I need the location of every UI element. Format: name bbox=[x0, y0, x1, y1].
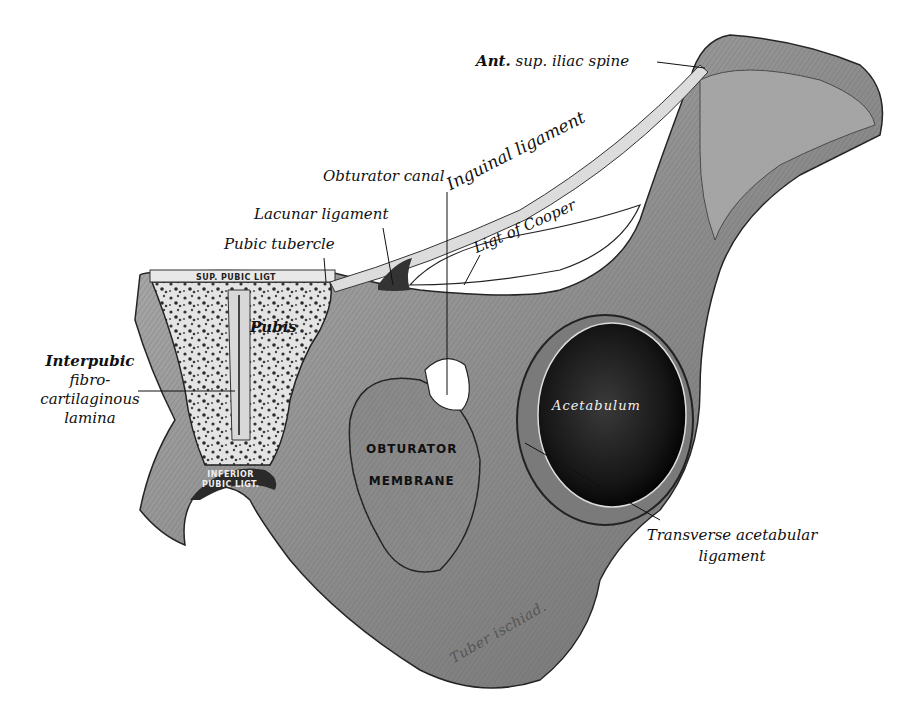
label-interpubic-line-3: cartilaginous bbox=[30, 390, 150, 409]
iliac-fossa bbox=[700, 70, 875, 240]
label-obturator-membrane: OBTURATOR MEMBRANE bbox=[366, 433, 458, 497]
label-ant-rest: sup. iliac spine bbox=[511, 52, 629, 70]
label-pubic-tubercle: Pubic tubercle bbox=[224, 236, 335, 253]
label-obturator-line-2: MEMBRANE bbox=[366, 465, 458, 497]
label-inferior-line-2: PUBIC LIGT. bbox=[202, 480, 259, 490]
label-lacunar-ligament: Lacunar ligament bbox=[254, 206, 388, 223]
label-interpubic-line-1: Interpubic bbox=[30, 352, 150, 371]
label-interpubic-lamina: Interpubic fibro- cartilaginous lamina bbox=[30, 352, 150, 428]
label-inferior-line-1: INFERIOR bbox=[202, 470, 259, 480]
label-ant-sup-iliac-spine: Ant. sup. iliac spine bbox=[476, 53, 629, 70]
label-sup-pubic-ligt: SUP. PUBIC LIGT bbox=[196, 273, 276, 282]
label-transverse-acetabular-ligament: Transverse acetabular ligament bbox=[632, 525, 832, 567]
label-inferior-pubic-ligt: INFERIOR PUBIC LIGT. bbox=[202, 470, 259, 490]
label-interpubic-line-2: fibro- bbox=[30, 371, 150, 390]
label-acetabulum: Acetabulum bbox=[552, 398, 641, 413]
label-obturator-line-1: OBTURATOR bbox=[366, 433, 458, 465]
label-obturator-canal: Obturator canal bbox=[323, 168, 444, 185]
label-ant-bold: Ant. bbox=[476, 52, 511, 70]
label-transverse-line-1: Transverse acetabular bbox=[632, 525, 832, 546]
acetabulum-cavity bbox=[538, 323, 686, 507]
label-transverse-line-2: ligament bbox=[632, 546, 832, 567]
hip-bone-figure: Ant. sup. iliac spine Obturator canal In… bbox=[0, 0, 906, 720]
label-pubis: Pubis bbox=[250, 318, 297, 336]
label-interpubic-line-4: lamina bbox=[30, 409, 150, 428]
